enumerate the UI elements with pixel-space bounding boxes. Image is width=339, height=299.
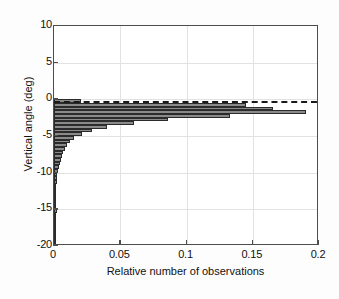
x-axis-tick: [119, 240, 120, 245]
x-axis-tick-label: 0: [28, 248, 78, 260]
y-axis-tick: [53, 135, 58, 136]
y-axis-tick: [53, 25, 58, 26]
gridline-vertical: [120, 26, 121, 244]
plot-area: [53, 25, 318, 245]
y-axis-tick: [53, 98, 58, 99]
figure-canvas: 1050-5-10-15-20 00.050.10.150.2 Vertical…: [0, 0, 339, 299]
y-axis-tick-label: 10: [40, 18, 52, 30]
y-axis-tick: [53, 62, 58, 63]
y-axis-tick-label: 0: [46, 91, 52, 103]
gridline-vertical: [253, 26, 254, 244]
gridline-horizontal: [54, 136, 317, 137]
gridline-horizontal: [54, 173, 317, 174]
y-axis-tick-label: -5: [43, 128, 52, 140]
x-axis-tick-label: 0.2: [293, 248, 339, 260]
y-axis-tick-label: 5: [46, 55, 52, 67]
x-axis-tick-label: 0.1: [161, 248, 211, 260]
y-axis-tick-label: -15: [37, 201, 52, 213]
y-axis-tick: [53, 172, 58, 173]
gridline-horizontal: [54, 209, 317, 210]
zero-reference-dashed-line: [54, 101, 317, 103]
x-axis-tick-label: 0.05: [94, 248, 144, 260]
gridline-vertical: [187, 26, 188, 244]
y-axis-tick: [53, 208, 58, 209]
x-axis-tick: [186, 240, 187, 245]
x-axis-tick: [318, 240, 319, 245]
y-axis-tick: [53, 245, 58, 246]
x-axis-tick: [53, 240, 54, 245]
x-axis-tick: [252, 240, 253, 245]
x-axis-tick-label: 0.15: [227, 248, 277, 260]
y-axis-tick-label: -10: [37, 165, 52, 177]
y-axis-title: Vertical angle (deg): [22, 44, 34, 204]
gridline-horizontal: [54, 63, 317, 64]
x-axis-title: Relative number of observations: [53, 265, 318, 277]
